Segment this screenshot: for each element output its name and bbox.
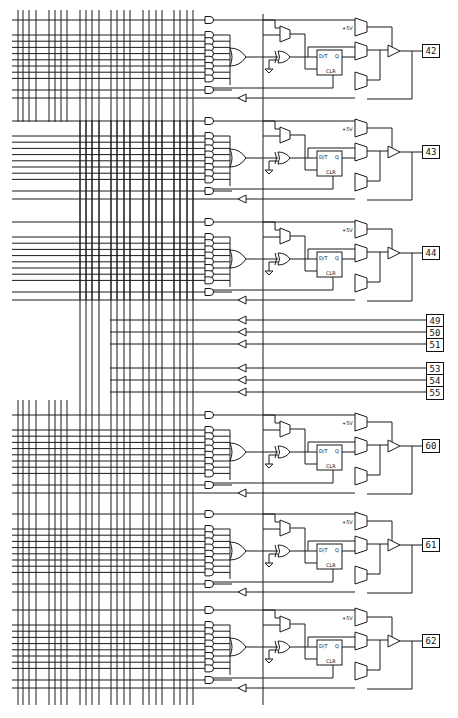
macrocell-42: D/TQCLR+5V: [12, 17, 422, 103]
ff-q-label: Q: [335, 643, 339, 649]
ff-clr-label: CLR: [326, 270, 336, 276]
macrocell-62: D/TQCLR+5V: [12, 607, 422, 693]
ff-data-label: D/T: [319, 643, 329, 649]
logic-schematic: D/TQCLR+5VD/TQCLR+5VD/TQCLR+5VD/TQCLR+5V…: [0, 0, 458, 718]
ff-data-label: D/T: [319, 255, 329, 261]
supply-5v-label: +5V: [342, 227, 353, 233]
ff-q-label: Q: [335, 547, 339, 553]
input-pin-49: [110, 316, 426, 324]
ff-clr-label: CLR: [326, 68, 336, 74]
ff-data-label: D/T: [319, 547, 329, 553]
ff-q-label: Q: [335, 53, 339, 59]
input-pin-53: [110, 364, 426, 372]
macrocell-60: D/TQCLR+5V: [12, 412, 422, 498]
input-pin-51: [110, 340, 426, 348]
output-pin-44: 44: [422, 246, 440, 260]
and-array-upper: [18, 10, 193, 400]
output-pin-61: 61: [422, 538, 440, 552]
output-pin-60: 60: [422, 439, 440, 453]
ff-clr-label: CLR: [326, 658, 336, 664]
input-pin-55: [110, 388, 426, 396]
supply-5v-label: +5V: [342, 25, 353, 31]
ff-clr-label: CLR: [326, 562, 336, 568]
input-pin-54: [110, 376, 426, 384]
ff-data-label: D/T: [319, 154, 329, 160]
output-pin-42: 42: [422, 44, 440, 58]
input-pin-box-51: 51: [426, 338, 444, 352]
ff-q-label: Q: [335, 255, 339, 261]
supply-5v-label: +5V: [342, 615, 353, 621]
macrocell-44: D/TQCLR+5V: [12, 219, 422, 305]
supply-5v-label: +5V: [342, 126, 353, 132]
and-array-lower: [18, 400, 193, 705]
macrocell-43: D/TQCLR+5V: [12, 118, 422, 204]
supply-5v-label: +5V: [342, 519, 353, 525]
supply-5v-label: +5V: [342, 420, 353, 426]
input-pin-50: [110, 328, 426, 336]
ff-data-label: D/T: [319, 448, 329, 454]
ff-clr-label: CLR: [326, 169, 336, 175]
output-pin-62: 62: [422, 634, 440, 648]
macrocell-61: D/TQCLR+5V: [12, 511, 422, 597]
input-pin-box-55: 55: [426, 386, 444, 400]
output-pin-43: 43: [422, 145, 440, 159]
ff-q-label: Q: [335, 448, 339, 454]
ff-q-label: Q: [335, 154, 339, 160]
ff-clr-label: CLR: [326, 463, 336, 469]
ff-data-label: D/T: [319, 53, 329, 59]
schematic-svg: D/TQCLR+5VD/TQCLR+5VD/TQCLR+5VD/TQCLR+5V…: [0, 0, 458, 718]
